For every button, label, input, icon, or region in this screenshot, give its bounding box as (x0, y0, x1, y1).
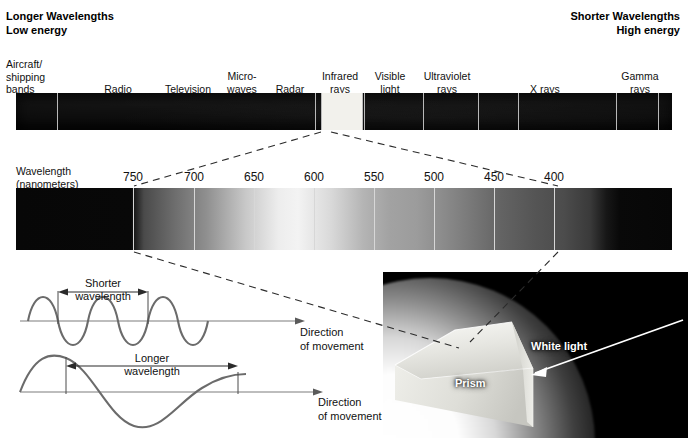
band-label-aircraft-shipping: Aircraft/ shipping bands (6, 58, 76, 96)
white-light-label: White light (531, 340, 587, 352)
wavelength-tick-400: 400 (534, 170, 574, 184)
em-divider (518, 93, 519, 130)
wavelength-tick-450: 450 (474, 170, 514, 184)
wavelength-divider (494, 188, 495, 250)
visible-light-gradient (16, 188, 672, 250)
em-divider (423, 93, 424, 130)
band-label-infrared-rays: Infrared rays (310, 70, 370, 95)
wavelength-tick-500: 500 (414, 170, 454, 184)
short-wave-curve (28, 297, 208, 345)
wavelength-tick-700: 700 (174, 170, 214, 184)
long-wave-measure-arrow-left (66, 363, 76, 370)
band-label-gamma-rays: Gamma rays (612, 70, 668, 95)
wavelength-divider (254, 188, 255, 250)
band-label-ultraviolet-rays: Ultraviolet rays (411, 70, 483, 95)
long-wave-direction-label: Direction of movement (318, 396, 382, 423)
em-divider (616, 93, 617, 130)
em-spectrum-bar (16, 93, 672, 130)
wavelength-divider (434, 188, 435, 250)
figure-canvas: Longer Wavelengths Low energy Shorter Wa… (0, 0, 688, 441)
wavelength-tick-750: 750 (113, 170, 153, 184)
visible-light-gradient-bar (16, 188, 672, 250)
long-wave-measure-arrow-right (228, 363, 238, 370)
wavelength-divider (133, 188, 134, 250)
wavelength-divider (374, 188, 375, 250)
wavelength-divider (194, 188, 195, 250)
short-wave-direction-label: Direction of movement (300, 326, 364, 353)
wavelength-tick-600: 600 (294, 170, 334, 184)
longer-wavelength-caption: Longer wavelength (92, 352, 212, 378)
callout-left-top (134, 132, 321, 186)
em-divider (364, 93, 365, 130)
visible-light-cell (321, 93, 362, 130)
em-divider (321, 93, 322, 130)
prism-vector (383, 272, 688, 438)
prism-label: Prism (455, 377, 486, 389)
band-label-visible-light: Visible light (362, 70, 418, 95)
wavelength-tick-650: 650 (234, 170, 274, 184)
longer-wavelengths-heading: Longer Wavelengths Low energy (6, 9, 114, 37)
prism-photograph: White light Prism (383, 272, 688, 438)
em-divider (315, 93, 316, 130)
long-wave-axis-arrowhead (313, 389, 323, 396)
wavelength-divider (554, 188, 555, 250)
shorter-wavelengths-heading: Shorter Wavelengths High energy (570, 9, 680, 37)
em-divider (57, 93, 58, 130)
em-divider (478, 93, 479, 130)
short-wave-axis-arrowhead (295, 318, 305, 325)
wavelength-divider (314, 188, 315, 250)
shorter-wavelength-caption: Shorter wavelength (48, 277, 158, 303)
em-divider (658, 93, 659, 130)
wavelength-tick-550: 550 (354, 170, 394, 184)
em-divider (362, 93, 363, 130)
